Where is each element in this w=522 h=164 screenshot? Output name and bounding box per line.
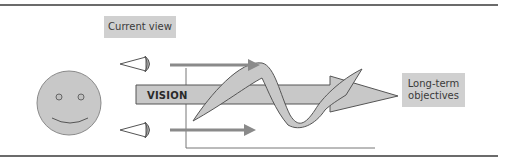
current-view-arrow-bottom xyxy=(170,124,256,136)
long-term-text-line2: objectives xyxy=(408,90,459,102)
current-view-text: Current view xyxy=(108,21,172,33)
bottom-rule xyxy=(0,155,498,157)
wave-shape xyxy=(193,63,362,128)
smiley-face-icon xyxy=(37,71,101,135)
long-term-objectives-label: Long-term objectives xyxy=(402,73,465,107)
vision-label: VISION xyxy=(147,90,187,101)
long-term-text-line1: Long-term xyxy=(408,78,460,90)
eye-icon-top xyxy=(120,56,150,72)
current-view-label: Current view xyxy=(104,16,176,38)
eye-icon-bottom xyxy=(120,122,150,138)
